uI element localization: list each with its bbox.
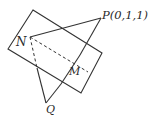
segment-pq-upper: [80, 18, 101, 55]
plane: [8, 10, 102, 93]
point-label-m: M: [69, 66, 80, 77]
segment-pq-lower: [46, 84, 61, 103]
point-label-p: P(0,1,1): [102, 10, 148, 22]
point-label-q: Q: [46, 104, 55, 115]
segment-np: [30, 18, 101, 37]
segment-nq-solid: [37, 68, 46, 103]
point-label-n: N: [16, 36, 27, 48]
